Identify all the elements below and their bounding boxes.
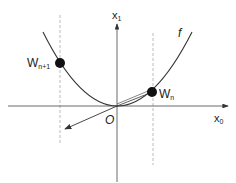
gradient-line [117, 93, 150, 106]
label-w-n-plus-1: Wn+1 [27, 56, 50, 70]
label-f: f [178, 26, 183, 40]
label-x1: x1 [112, 9, 122, 22]
label-x0: x0 [214, 112, 224, 125]
diagram-canvas: Wn+1 Wn f O x1 x0 [0, 0, 236, 183]
point-w-n [147, 87, 157, 97]
label-w-n: Wn [159, 87, 174, 101]
point-w-n-plus-1 [55, 58, 65, 68]
label-origin: O [105, 113, 114, 127]
